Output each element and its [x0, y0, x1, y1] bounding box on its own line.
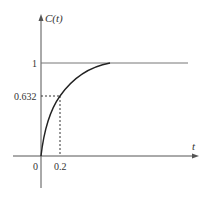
x-axis-label: t	[192, 140, 196, 152]
y-axis-label: C(t)	[45, 12, 63, 25]
y-axis-arrow-icon	[39, 14, 44, 21]
x-axis-arrow-icon	[192, 154, 199, 159]
tick-y-1: 1	[32, 58, 37, 69]
step-response-chart: C(t) t 0 0.2 1 0.632	[0, 0, 213, 197]
response-curve	[41, 63, 110, 156]
origin-label: 0	[33, 161, 38, 172]
tick-x-02: 0.2	[54, 161, 67, 172]
tick-y-0632: 0.632	[14, 91, 37, 102]
